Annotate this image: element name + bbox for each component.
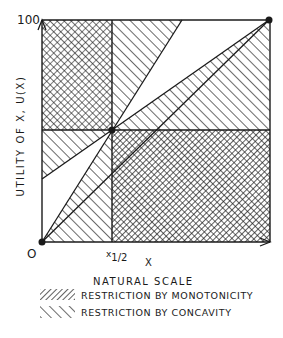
origin-point — [39, 239, 46, 246]
utility-restriction-diagram: 100 UTILITY OF X, U(X) O x1/2 X NATURAL … — [0, 0, 283, 338]
monotonicity-swatch — [40, 289, 75, 300]
region-upper-left-crosshatch — [42, 20, 112, 130]
legend-item-monotonicity: RESTRICTION BY MONOTONICITY — [40, 289, 253, 301]
legend-item-concavity: RESTRICTION BY CONCAVITY — [40, 306, 232, 318]
legend: RESTRICTION BY MONOTONICITY RESTRICTION … — [40, 289, 253, 318]
y-axis-max-label: 100 — [17, 13, 40, 27]
top-right-point — [266, 17, 273, 24]
origin-label: O — [27, 247, 36, 261]
midpoint — [109, 127, 116, 134]
concavity-swatch — [40, 306, 75, 318]
legend-label-monotonicity: RESTRICTION BY MONOTONICITY — [81, 290, 253, 301]
y-axis-label: UTILITY OF X, U(X) — [15, 75, 26, 196]
x-midpoint-label: x1/2 — [106, 249, 127, 263]
x-axis-var: X — [145, 257, 152, 268]
region-lower-right-crosshatch — [112, 130, 270, 242]
legend-label-concavity: RESTRICTION BY CONCAVITY — [81, 307, 232, 318]
x-axis-label: NATURAL SCALE — [93, 276, 194, 287]
